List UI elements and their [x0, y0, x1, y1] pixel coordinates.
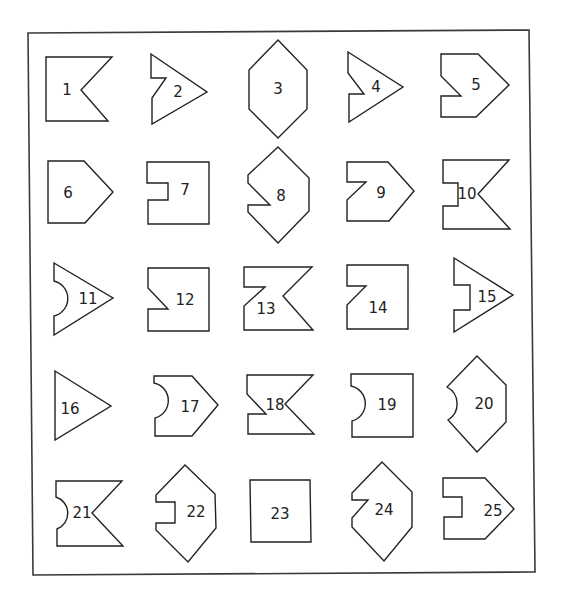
shape-label: 20	[474, 395, 493, 413]
shape-label: 13	[256, 300, 275, 318]
shape-21: 21	[56, 481, 123, 546]
shape-label: 4	[371, 78, 381, 96]
shape-6: 6	[48, 161, 113, 223]
shape-label: 9	[376, 184, 386, 202]
shape-22: 22	[156, 465, 216, 562]
shape-label: 8	[276, 187, 286, 205]
shape-label: 5	[471, 76, 481, 94]
shape-14: 14	[347, 265, 408, 329]
shape-label: 22	[186, 503, 205, 521]
shape-25: 25	[443, 478, 514, 539]
rect-slot-left-outline	[147, 162, 209, 224]
shape-label: 25	[483, 502, 502, 520]
shape-1: 1	[46, 57, 112, 121]
shape-label: 6	[63, 184, 73, 202]
shape-13: 13	[244, 267, 313, 330]
rect-step-left-outline	[347, 265, 408, 329]
shape-label: 19	[377, 396, 396, 414]
shape-17: 17	[154, 376, 218, 436]
shape-23: 23	[250, 480, 311, 542]
shape-label: 17	[180, 398, 199, 416]
shape-label: 21	[72, 504, 91, 522]
shape-3: 3	[249, 40, 307, 138]
shape-label: 15	[477, 288, 496, 306]
shape-label: 1	[62, 81, 72, 99]
shape-16: 16	[55, 371, 111, 440]
shape-12: 12	[148, 268, 209, 331]
shape-18: 18	[247, 375, 314, 434]
shape-4: 4	[348, 52, 403, 122]
shape-20: 20	[447, 356, 506, 452]
shape-24: 24	[352, 462, 412, 561]
shape-label: 24	[374, 501, 393, 519]
shape-10: 10	[443, 160, 510, 229]
shape-label: 14	[368, 299, 387, 317]
shape-8: 8	[248, 147, 309, 243]
shape-9: 9	[347, 162, 414, 221]
shape-label: 2	[173, 83, 183, 101]
shape-15: 15	[454, 258, 513, 332]
shape-label: 10	[457, 185, 476, 203]
puzzle-shapes-figure: 1234567891011121314151617181920212223242…	[0, 0, 564, 615]
shape-2: 2	[151, 54, 207, 124]
flag-step-outline	[244, 267, 313, 330]
shape-label: 23	[270, 505, 289, 523]
shapes-grid: 1234567891011121314151617181920212223242…	[46, 40, 514, 562]
pentagon-slot-left-outline	[443, 478, 514, 539]
pentagon-outline	[48, 161, 113, 223]
shape-label: 7	[180, 181, 190, 199]
shape-label: 3	[273, 80, 283, 98]
shape-7: 7	[147, 162, 209, 224]
flag-notch-right-outline	[46, 57, 112, 121]
shape-5: 5	[441, 54, 509, 117]
shape-11: 11	[54, 263, 113, 335]
shape-label: 16	[60, 400, 79, 418]
shape-19: 19	[351, 374, 413, 437]
shape-label: 12	[175, 291, 194, 309]
shape-label: 11	[78, 290, 97, 308]
shape-label: 18	[265, 396, 284, 414]
